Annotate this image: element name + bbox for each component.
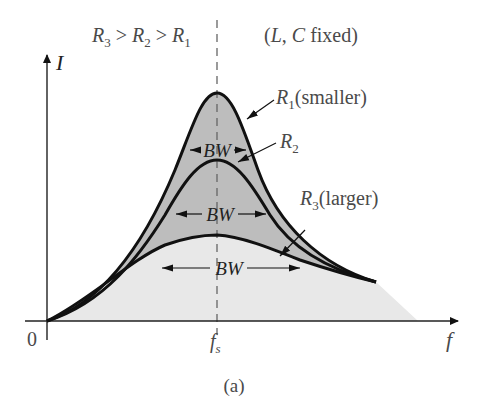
resistance-ordering: R3 > R2 > R1: [91, 24, 191, 50]
fixed-note: (L, C fixed): [264, 24, 358, 47]
bw-label-r3: BW: [215, 258, 245, 279]
origin-label: 0: [27, 328, 37, 350]
fs-label: fs: [210, 330, 221, 356]
pointer-r1: [247, 100, 274, 119]
y-axis-label: I: [55, 50, 65, 75]
bw-label-r2: BW: [206, 204, 236, 225]
bw-label-r1: BW: [203, 140, 233, 161]
label-r2: R2: [279, 130, 299, 156]
x-axis-label: f: [446, 327, 455, 352]
label-r3: R3(larger): [299, 187, 378, 213]
figure-caption: (a): [223, 375, 244, 397]
resonance-curve-diagram: BW BW BW R1(smaller) R2 R3(larger) R3 > …: [0, 0, 486, 418]
label-r1: R1(smaller): [275, 86, 367, 112]
